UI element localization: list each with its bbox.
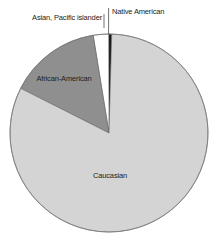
label-caucasian: Caucasian [93, 171, 127, 180]
label-african-american: African-American [36, 74, 91, 83]
pie-slices [10, 34, 208, 232]
label-native-american: Native American [112, 7, 164, 16]
pie-chart: Asian, Pacific islander Native American … [0, 0, 216, 241]
label-asian-pacific-islander: Asian, Pacific islander [32, 13, 103, 22]
